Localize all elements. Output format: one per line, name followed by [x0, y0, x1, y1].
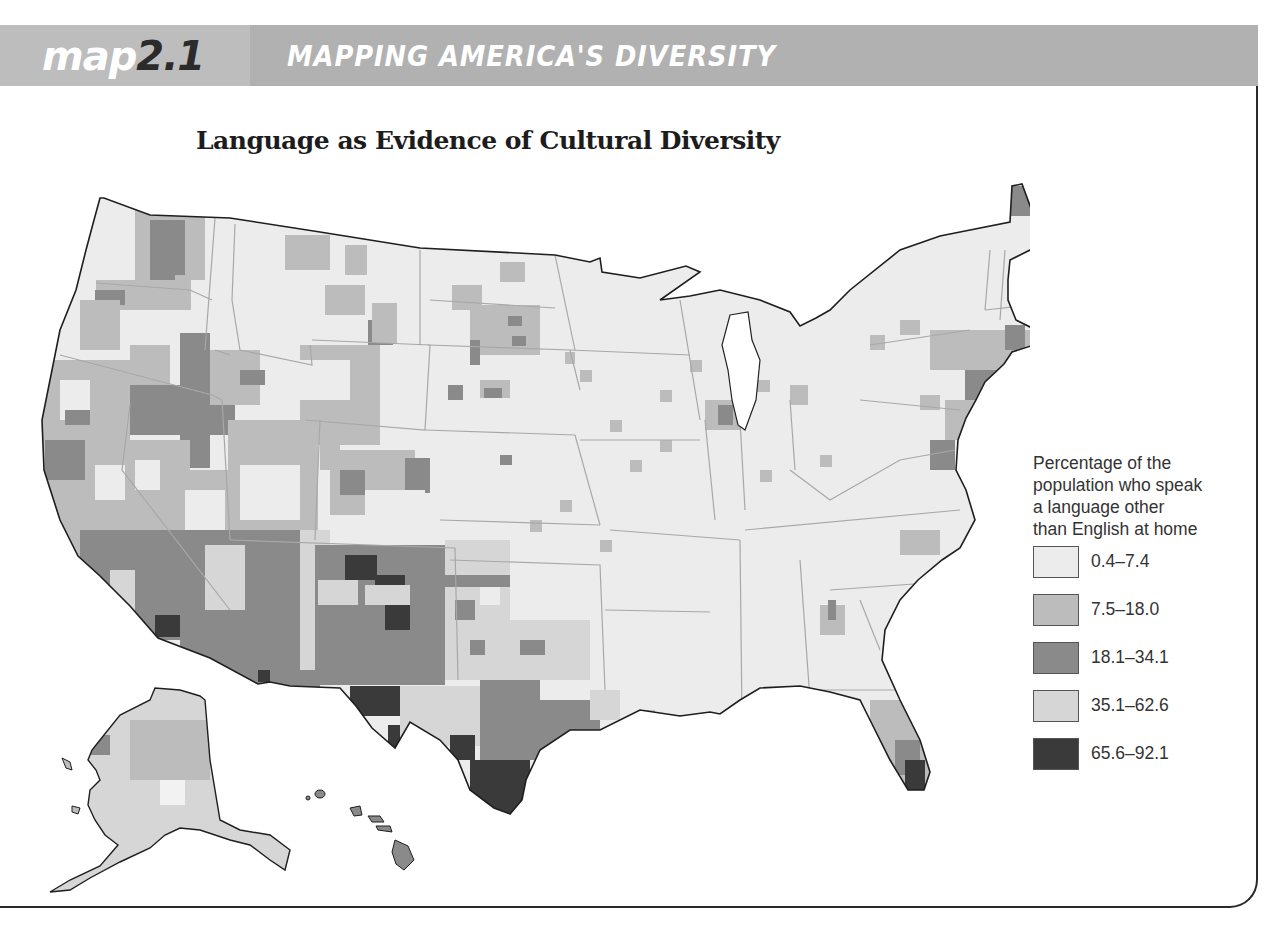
legend-label: 18.1–34.1	[1091, 647, 1169, 668]
legend-title-line: than English at home	[1033, 518, 1251, 540]
choropleth-map	[0, 0, 1030, 929]
legend-swatch	[1033, 546, 1079, 578]
legend-swatch	[1033, 738, 1079, 770]
legend-title-line: a language other	[1033, 496, 1251, 518]
legend-item: 18.1–34.1	[1031, 642, 1251, 690]
gulf-counties	[680, 700, 930, 800]
legend: Percentage of the population who speak a…	[1031, 452, 1251, 786]
legend-label: 35.1–62.6	[1091, 695, 1169, 716]
alaska	[40, 680, 300, 900]
legend-title-line: population who speak	[1033, 474, 1251, 496]
legend-label: 7.5–18.0	[1091, 599, 1159, 620]
legend-item: 7.5–18.0	[1031, 594, 1251, 642]
legend-label: 0.4–7.4	[1091, 551, 1149, 572]
legend-title-line: Percentage of the	[1033, 452, 1251, 474]
legend-label: 65.6–92.1	[1091, 743, 1169, 764]
legend-title: Percentage of the population who speak a…	[1033, 452, 1251, 540]
legend-item: 65.6–92.1	[1031, 738, 1251, 786]
hawaii	[306, 790, 414, 870]
legend-swatch	[1033, 642, 1079, 674]
legend-item: 0.4–7.4	[1031, 546, 1251, 594]
legend-swatch	[1033, 594, 1079, 626]
legend-item: 35.1–62.6	[1031, 690, 1251, 738]
legend-swatch	[1033, 690, 1079, 722]
